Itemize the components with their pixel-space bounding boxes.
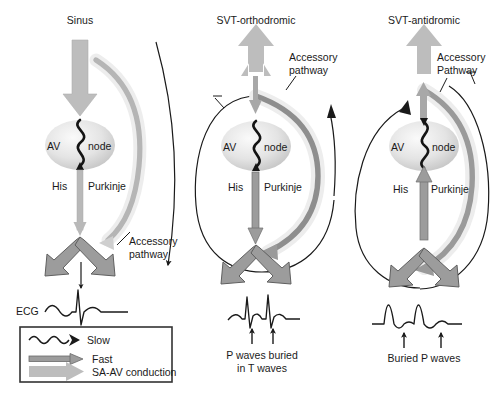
accessory-label-line2-orthodromic: pathway — [289, 64, 328, 76]
ecg-caption-line1-antidromic: Buried P waves — [388, 352, 461, 364]
ecg-caption-line1-orthodromic: P waves buried — [226, 349, 298, 361]
legend-label-sa-av: SA-AV conduction — [92, 366, 176, 378]
av-label-antidromic: AV — [391, 141, 404, 153]
purkinje-label-orthodromic: Purkinje — [264, 181, 302, 193]
accessory-label-line1-orthodromic: Accessory — [289, 51, 337, 63]
panel-title-orthodromic: SVT-orthodromic — [217, 14, 296, 26]
accessory-label-leader-antidromic — [440, 78, 447, 92]
his-label-sinus: His — [52, 180, 67, 192]
panel-sinus-graphics — [20, 40, 175, 382]
purkinje-label-antidromic: Purkinje — [431, 183, 469, 195]
panel-title-antidromic: SVT-antidromic — [388, 14, 460, 26]
ecg-trace-sinus — [45, 290, 128, 325]
activation-sweep-arrow-sinus — [156, 42, 175, 265]
accessory-label-leader-orthodromic — [286, 76, 296, 90]
accessory-pathway-arc-orthodromic — [256, 96, 318, 260]
panel-title-sinus: Sinus — [67, 14, 93, 26]
node-label-antidromic: node — [432, 141, 455, 153]
node-label-sinus: node — [88, 140, 111, 152]
ecg-trace-antidromic — [372, 305, 462, 328]
av-label-orthodromic: AV — [223, 141, 236, 153]
his-purkinje-stem-orthodromic — [248, 172, 263, 244]
legend-label-slow: Slow — [87, 334, 110, 346]
ecg-caption-line2-orthodromic: in T waves — [237, 362, 287, 374]
accessory-label-line2-sinus: pathway — [129, 248, 168, 260]
ecg-trace-orthodromic — [228, 295, 300, 328]
accessory-label-line1-antidromic: Accessory — [437, 51, 485, 63]
his-label-antidromic: His — [393, 183, 408, 195]
ecg-label-sinus: ECG — [16, 305, 39, 317]
accessory-label-line1-sinus: Accessory — [129, 235, 177, 247]
atrial-activation-arrow-antidromic — [417, 42, 431, 74]
av-label-sinus: AV — [47, 140, 60, 152]
sa-av-conduction-arrow-sinus — [63, 40, 97, 116]
his-purkinje-stem-sinus — [74, 170, 87, 236]
legend-label-fast: Fast — [92, 353, 112, 365]
figure-canvas: Sinus AV node His Purkinje Accessory pat… — [0, 0, 504, 411]
his-label-orthodromic: His — [228, 181, 243, 193]
node-label-orthodromic: node — [264, 141, 287, 153]
his-purkinje-stem-antidromic — [416, 166, 432, 240]
accessory-label-line2-antidromic: Pathway — [437, 64, 477, 76]
purkinje-label-sinus: Purkinje — [88, 180, 126, 192]
